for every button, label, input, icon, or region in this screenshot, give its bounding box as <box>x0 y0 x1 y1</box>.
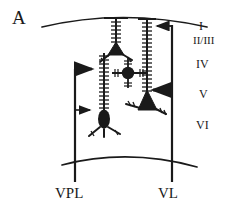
white-matter-curve <box>62 157 197 167</box>
soma-circle-stellate <box>122 67 134 79</box>
afferent-label-vpl: VPL <box>55 186 83 201</box>
soma-triangle-right <box>138 90 157 110</box>
afferent-label-vl: VL <box>158 186 178 201</box>
panel-label: A <box>12 8 26 27</box>
pyramidal-neuron-lower-left <box>89 53 120 137</box>
layer-label-iv: IV <box>196 58 209 70</box>
figure-panel-a: A I II/III IV V VI VPL VL <box>0 0 227 210</box>
soma-oval-left <box>98 110 110 129</box>
cortex-boundaries <box>42 18 207 168</box>
cortical-circuit-diagram <box>0 0 227 210</box>
vpl-afferent-pathway <box>75 69 92 182</box>
layer-label-ii-iii: II/III <box>193 35 214 46</box>
spiny-stellate-neuron <box>112 58 146 88</box>
layer-label-i: I <box>199 20 203 32</box>
pyramidal-neuron-lower-right <box>126 19 166 115</box>
layer-label-v: V <box>199 88 208 100</box>
layer-label-vi: VI <box>196 119 209 131</box>
soma-triangle-upper <box>108 42 124 55</box>
